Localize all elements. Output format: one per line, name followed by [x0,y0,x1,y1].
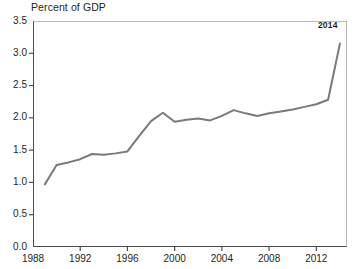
x-axis-ticks [80,247,316,251]
data-point-annotation: 2014 [318,20,338,30]
x-axis-tick-label: 1996 [107,253,147,264]
data-series-line [45,44,340,185]
x-axis-tick-label: 2008 [249,253,289,264]
y-axis-tick-label: 2.5 [1,79,27,90]
y-axis-ticks [29,53,33,214]
y-axis-tick-label: 3.0 [1,47,27,58]
x-axis-tick-label: 2012 [296,253,336,264]
x-axis-tick-label: 1988 [13,253,53,264]
y-axis-tick-label: 0.0 [1,241,27,252]
y-axis-tick-label: 0.5 [1,208,27,219]
x-axis-tick-label: 2004 [202,253,242,264]
y-axis-tick-label: 1.5 [1,144,27,155]
chart-container: Percent of GDP 0.00.51.01.52.02.53.03.5 … [0,0,358,269]
x-axis-tick-label: 1992 [60,253,100,264]
y-axis-tick-label: 2.0 [1,111,27,122]
x-axis-tick-label: 2000 [155,253,195,264]
y-axis-tick-label: 1.0 [1,176,27,187]
chart-svg-layer [0,0,358,269]
y-axis-tick-label: 3.5 [1,15,27,26]
